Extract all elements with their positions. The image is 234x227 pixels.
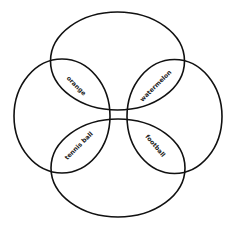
region-label-football: football [144, 133, 167, 158]
region-label-tennis-ball: tennis ball [63, 130, 94, 161]
ellipse-bottom [51, 119, 185, 217]
venn-diagram: orange watermelon tennis ball football [0, 0, 234, 227]
ellipse-right [127, 60, 222, 174]
venn-canvas: orange watermelon tennis ball football [0, 0, 234, 227]
